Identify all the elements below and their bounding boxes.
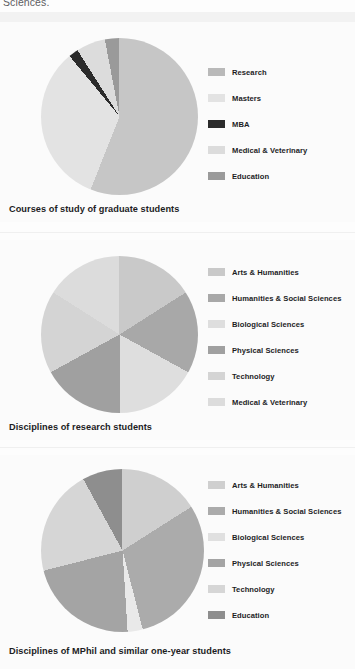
legend-swatch-icon bbox=[208, 294, 225, 302]
pie-chart-2-wrapper bbox=[41, 256, 198, 413]
pie-chart-3-wrapper bbox=[41, 469, 204, 632]
pie-chart-courses-of-study bbox=[41, 38, 198, 195]
legend-item: Humanities & Social Sciences bbox=[208, 292, 341, 304]
legend-item-label: Physical Sciences bbox=[232, 346, 299, 355]
legend-swatch-icon bbox=[208, 481, 225, 489]
figure-courses-of-study: ResearchMastersMBAMedical & VeterinaryEd… bbox=[0, 22, 355, 222]
figure-caption-3: Disciplines of MPhil and similar one-yea… bbox=[9, 646, 231, 656]
figure-disciplines-mphil: Arts & HumanitiesHumanities & Social Sci… bbox=[0, 455, 355, 669]
legend-swatch-icon bbox=[208, 120, 225, 128]
figure-caption-2: Disciplines of research students bbox=[9, 422, 152, 432]
legend-swatch-icon bbox=[208, 611, 225, 619]
legend-swatch-icon bbox=[208, 146, 225, 154]
pie-chart-disciplines-research bbox=[41, 256, 198, 413]
legend-courses-of-study: ResearchMastersMBAMedical & VeterinaryEd… bbox=[208, 66, 307, 182]
legend-swatch-icon bbox=[208, 268, 225, 276]
legend-item: Humanities & Social Sciences bbox=[208, 505, 341, 517]
legend-item-label: Biological Sciences bbox=[232, 533, 304, 542]
legend-swatch-icon bbox=[208, 507, 225, 515]
legend-item: Masters bbox=[208, 92, 307, 104]
page-top-partial-text: Sciences. bbox=[3, 0, 49, 8]
figure-disciplines-research: Arts & HumanitiesHumanities & Social Sci… bbox=[0, 240, 355, 440]
top-band-divider bbox=[0, 12, 355, 22]
legend-swatch-icon bbox=[208, 398, 225, 406]
legend-item: Technology bbox=[208, 370, 341, 382]
legend-item: Medical & Veterinary bbox=[208, 144, 307, 156]
section-divider-1 bbox=[0, 232, 355, 233]
legend-item-label: Research bbox=[232, 68, 267, 77]
legend-item-label: Education bbox=[232, 611, 269, 620]
legend-item-label: Humanities & Social Sciences bbox=[232, 294, 341, 303]
legend-item: Medical & Veterinary bbox=[208, 396, 341, 408]
legend-item-label: Medical & Veterinary bbox=[232, 146, 307, 155]
legend-item: Arts & Humanities bbox=[208, 479, 341, 491]
legend-disciplines-mphil: Arts & HumanitiesHumanities & Social Sci… bbox=[208, 479, 341, 635]
pie-chart-1-wrapper bbox=[41, 38, 198, 195]
legend-item: Biological Sciences bbox=[208, 318, 341, 330]
legend-item: Physical Sciences bbox=[208, 344, 341, 356]
legend-item-label: Technology bbox=[232, 372, 275, 381]
legend-swatch-icon bbox=[208, 585, 225, 593]
legend-item-label: Humanities & Social Sciences bbox=[232, 507, 341, 516]
legend-item: Physical Sciences bbox=[208, 557, 341, 569]
legend-item: Biological Sciences bbox=[208, 531, 341, 543]
legend-swatch-icon bbox=[208, 68, 225, 76]
legend-swatch-icon bbox=[208, 559, 225, 567]
legend-item: Arts & Humanities bbox=[208, 266, 341, 278]
legend-item-label: MBA bbox=[232, 120, 249, 129]
legend-item-label: Arts & Humanities bbox=[232, 481, 299, 490]
legend-swatch-icon bbox=[208, 94, 225, 102]
figure-caption-1: Courses of study of graduate students bbox=[9, 204, 179, 214]
legend-item-label: Biological Sciences bbox=[232, 320, 304, 329]
legend-swatch-icon bbox=[208, 372, 225, 380]
legend-disciplines-research: Arts & HumanitiesHumanities & Social Sci… bbox=[208, 266, 341, 422]
legend-swatch-icon bbox=[208, 533, 225, 541]
pie-chart-disciplines-mphil bbox=[41, 469, 204, 632]
legend-item: Education bbox=[208, 609, 341, 621]
legend-item-label: Medical & Veterinary bbox=[232, 398, 307, 407]
legend-item-label: Education bbox=[232, 172, 269, 181]
legend-item: MBA bbox=[208, 118, 307, 130]
legend-swatch-icon bbox=[208, 346, 225, 354]
legend-swatch-icon bbox=[208, 172, 225, 180]
section-divider-2 bbox=[0, 447, 355, 448]
legend-item-label: Physical Sciences bbox=[232, 559, 299, 568]
legend-item: Technology bbox=[208, 583, 341, 595]
legend-item: Research bbox=[208, 66, 307, 78]
legend-item-label: Technology bbox=[232, 585, 275, 594]
legend-swatch-icon bbox=[208, 320, 225, 328]
page-root: Sciences. ResearchMastersMBAMedical & Ve… bbox=[0, 0, 355, 669]
legend-item-label: Arts & Humanities bbox=[232, 268, 299, 277]
legend-item-label: Masters bbox=[232, 94, 261, 103]
legend-item: Education bbox=[208, 170, 307, 182]
